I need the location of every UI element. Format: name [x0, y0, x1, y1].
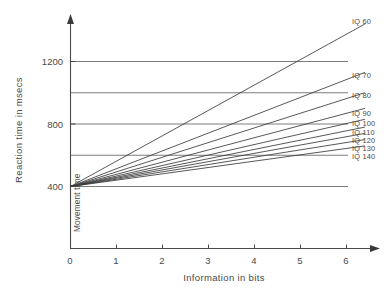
y-tick-label-800: 800 — [47, 119, 63, 130]
y-axis-title: Reaction time in msecs — [13, 77, 24, 183]
y-tick-label-1200: 1200 — [42, 56, 63, 67]
series-label-iq-70: IQ 70 — [352, 71, 371, 80]
series-label-iq-60: IQ 60 — [352, 17, 371, 26]
movement-time-annotation: Movement time — [73, 173, 82, 232]
x-tick-label-3: 3 — [205, 255, 210, 266]
chart-container: IQ 60 IQ 70 IQ 80 IQ 90 IQ 100 IQ 110 IQ… — [0, 0, 389, 289]
x-tick-label-0: 0 — [67, 255, 72, 266]
x-tick-label-1: 1 — [113, 255, 118, 266]
x-tick-label-5: 5 — [297, 255, 302, 266]
y-tick-label-400: 400 — [47, 181, 63, 192]
reaction-time-iq-chart: IQ 60 IQ 70 IQ 80 IQ 90 IQ 100 IQ 110 IQ… — [0, 0, 389, 289]
x-tick-label-4: 4 — [251, 255, 256, 266]
series-label-iq-90: IQ 90 — [352, 109, 371, 118]
x-tick-label-6: 6 — [343, 255, 348, 266]
x-tick-label-2: 2 — [159, 255, 164, 266]
series-label-iq-80: IQ 80 — [352, 91, 371, 100]
series-label-iq-140: IQ 140 — [352, 152, 375, 161]
x-axis-title: Information in bits — [183, 272, 265, 283]
series-label-iq-100: IQ 100 — [352, 119, 375, 128]
